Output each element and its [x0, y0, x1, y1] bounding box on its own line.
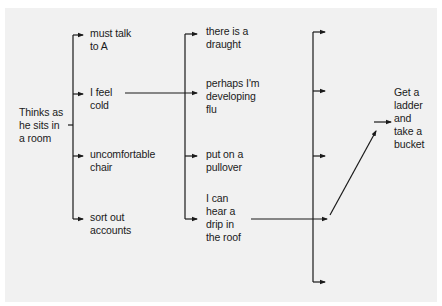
node-developing-flu: perhaps I'm developing flu	[206, 77, 259, 116]
bracket-level3	[313, 32, 325, 282]
node-drip-in-roof: I can hear a drip in the roof	[206, 192, 241, 244]
arrow-diagonal-to-outcome	[330, 131, 376, 215]
node-sort-out-accounts: sort out accounts	[90, 211, 131, 237]
node-put-on-pullover: put on a pullover	[206, 148, 243, 174]
root-node: Thinks as he sits in a room	[19, 106, 63, 145]
node-there-is-a-draught: there is a draught	[206, 25, 248, 51]
node-get-ladder-bucket: Get a ladder and take a bucket	[394, 86, 424, 151]
bracket-level2	[185, 34, 197, 219]
node-must-talk-to-a: must talk to A	[90, 27, 131, 53]
bracket-level1	[68, 35, 83, 219]
node-i-feel-cold: I feel cold	[90, 86, 112, 112]
node-uncomfortable-chair: uncomfortable chair	[90, 148, 155, 174]
